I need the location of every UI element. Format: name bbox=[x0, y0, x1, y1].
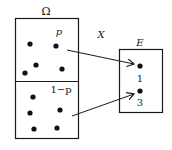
probability-1-minus-p-label: 1−p bbox=[50, 84, 71, 95]
mapping-x-label: X bbox=[96, 29, 105, 40]
outcome-dot bbox=[22, 70, 27, 75]
outcome-dot bbox=[31, 126, 36, 131]
codomain-point-3: 3 bbox=[137, 88, 143, 108]
outcome-dot bbox=[53, 43, 58, 48]
codomain-point-1: 1 bbox=[137, 63, 143, 84]
codomain-e-label: E bbox=[135, 37, 144, 48]
probability-p-label: p bbox=[56, 26, 63, 37]
omega-label: Ω bbox=[41, 5, 50, 18]
lower-region: 1−p bbox=[27, 84, 71, 132]
value-dot bbox=[137, 88, 142, 93]
arrow-to-1 bbox=[67, 50, 134, 64]
sample-space-box bbox=[16, 19, 79, 139]
outcome-dot bbox=[30, 94, 35, 99]
outcome-dot bbox=[54, 125, 59, 130]
sample-space-border bbox=[16, 19, 79, 139]
outcome-dot bbox=[27, 110, 32, 115]
outcome-dot bbox=[59, 66, 64, 71]
value-label: 3 bbox=[137, 97, 143, 108]
value-dot bbox=[137, 63, 142, 68]
outcome-dot bbox=[27, 41, 32, 46]
outcome-dot bbox=[33, 62, 38, 67]
outcome-dot bbox=[57, 107, 62, 112]
random-variable-diagram: Ω p 1−p X E 1 3 bbox=[0, 0, 172, 150]
value-label: 1 bbox=[137, 73, 143, 84]
upper-region: p bbox=[22, 26, 64, 76]
